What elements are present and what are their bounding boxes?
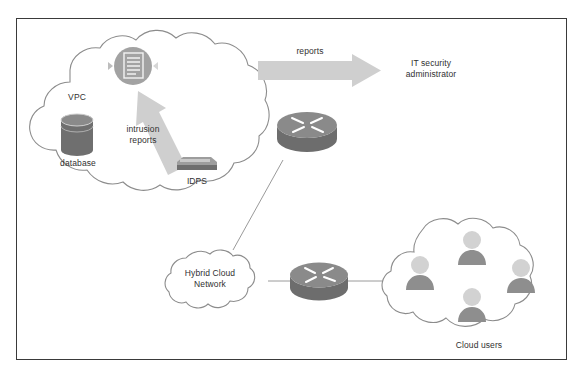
reports-block-arrow (258, 54, 381, 87)
label-intrusion-reports: intrusion reports (113, 124, 173, 146)
figure-page: VPC database intrusion reports IDPS repo… (0, 0, 587, 377)
idps-appliance-icon (177, 157, 217, 170)
database-cylinder-icon (61, 114, 93, 156)
label-idps: IDPS (172, 176, 222, 187)
label-reports: reports (286, 46, 334, 57)
label-hybrid-cloud-network: Hybrid Cloud Network (176, 268, 244, 290)
line-router-top-to-hybrid (233, 160, 283, 250)
router-bottom-icon (290, 263, 348, 301)
label-vpc: VPC (56, 92, 98, 103)
users-cloud-outline (382, 218, 533, 326)
label-cloud-users: Cloud users (443, 340, 515, 351)
router-top-icon (277, 112, 337, 152)
label-it-security-administrator: IT security administrator (388, 58, 474, 80)
label-database: database (52, 158, 104, 169)
diagram-canvas: VPC database intrusion reports IDPS repo… (0, 0, 587, 377)
